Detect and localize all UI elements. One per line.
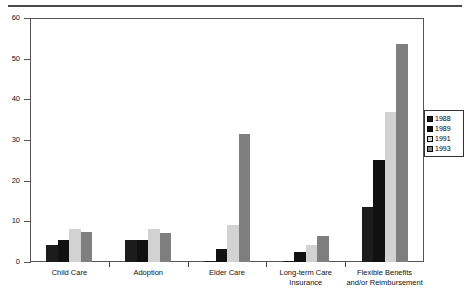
x-group-tick: [188, 262, 189, 267]
bar: [160, 233, 172, 262]
legend-label-1989: 1989: [435, 125, 451, 132]
x-axis-category-label: Adoption: [109, 268, 188, 278]
bar-chart-figure: Percent 0102030405060 Child CareAdoption…: [0, 0, 470, 299]
legend-label-1991: 1991: [435, 135, 451, 142]
y-tick-label: 10: [0, 217, 20, 225]
bar: [58, 240, 70, 262]
x-axis-label-line: Insurance: [266, 278, 345, 288]
bar: [137, 240, 149, 262]
x-axis-category-label: Elder Care: [188, 268, 267, 278]
bar: [125, 240, 137, 262]
x-axis-label-line: and/or Reimbursement: [345, 278, 424, 288]
x-group-tick: [266, 262, 267, 267]
bar: [385, 112, 397, 262]
y-tick-label: 20: [0, 177, 20, 185]
y-tick-label: 50: [0, 55, 20, 63]
legend-swatch-1989: [427, 126, 433, 132]
bar: [239, 134, 251, 262]
bar: [294, 252, 306, 262]
y-tick: 0: [0, 262, 470, 263]
legend-item[interactable]: 1993: [427, 144, 461, 153]
bar: [69, 229, 81, 262]
y-tick-mark: [24, 262, 31, 263]
bar: [204, 261, 216, 262]
bar: [373, 160, 385, 262]
x-axis-label-line: Long-term Care: [266, 268, 345, 278]
bar: [283, 261, 295, 262]
bar: [396, 44, 408, 262]
bar: [148, 229, 160, 262]
x-axis-label-line: Elder Care: [188, 268, 267, 278]
bar: [362, 207, 374, 262]
legend-label-1993: 1993: [435, 145, 451, 152]
legend-item[interactable]: 1988: [427, 114, 461, 123]
header-rule: [8, 5, 462, 7]
legend-swatch-1988: [427, 116, 433, 122]
legend-label-1988: 1988: [435, 115, 451, 122]
y-tick-label: 0: [0, 258, 20, 266]
bar: [216, 249, 228, 262]
bars-layer: [30, 18, 424, 262]
x-axis-category-label: Child Care: [30, 268, 109, 278]
y-tick-label: 30: [0, 136, 20, 144]
x-group-tick: [109, 262, 110, 267]
bar: [46, 245, 58, 262]
x-group-tick: [345, 262, 346, 267]
x-axis-label-line: Child Care: [30, 268, 109, 278]
legend: 1988 1989 1991 1993: [424, 110, 464, 157]
bar: [227, 225, 239, 262]
y-tick-label: 40: [0, 95, 20, 103]
legend-swatch-1991: [427, 136, 433, 142]
x-axis-label-line: Adoption: [109, 268, 188, 278]
legend-item[interactable]: 1989: [427, 124, 461, 133]
y-tick-label: 60: [0, 14, 20, 22]
bar: [306, 245, 318, 262]
x-axis-category-label: Long-term CareInsurance: [266, 268, 345, 287]
legend-item[interactable]: 1991: [427, 134, 461, 143]
bar: [317, 236, 329, 262]
bar: [81, 232, 93, 262]
x-axis-label-line: Flexible Benefits: [345, 268, 424, 278]
legend-swatch-1993: [427, 146, 433, 152]
x-axis-category-label: Flexible Benefitsand/or Reimbursement: [345, 268, 424, 287]
